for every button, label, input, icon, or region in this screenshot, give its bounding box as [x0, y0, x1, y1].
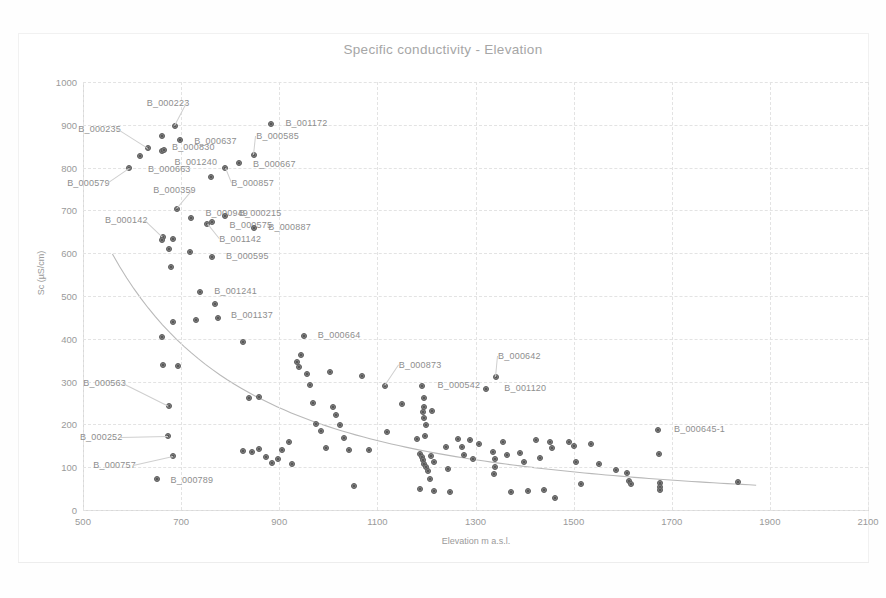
data-point[interactable] [428, 453, 434, 459]
data-point[interactable] [263, 454, 269, 460]
data-point[interactable] [423, 422, 429, 428]
data-point[interactable] [476, 441, 482, 447]
data-point[interactable] [301, 333, 307, 339]
data-point[interactable] [459, 444, 465, 450]
data-point[interactable] [628, 481, 634, 487]
data-point[interactable] [168, 264, 174, 270]
data-point[interactable] [236, 160, 242, 166]
data-point[interactable] [657, 487, 663, 493]
data-point[interactable] [417, 486, 423, 492]
data-point[interactable] [431, 459, 437, 465]
data-point[interactable] [483, 386, 489, 392]
data-point[interactable] [655, 427, 661, 433]
data-point[interactable] [508, 489, 514, 495]
data-point[interactable] [310, 400, 316, 406]
data-point[interactable] [445, 466, 451, 472]
data-point[interactable] [421, 415, 427, 421]
data-point[interactable] [504, 452, 510, 458]
data-point[interactable] [588, 441, 594, 447]
data-point[interactable] [161, 147, 167, 153]
data-point[interactable] [447, 489, 453, 495]
data-point[interactable] [154, 476, 160, 482]
data-point[interactable] [286, 439, 292, 445]
data-point[interactable] [399, 401, 405, 407]
data-point[interactable] [341, 435, 347, 441]
data-point[interactable] [188, 215, 194, 221]
data-point[interactable] [337, 422, 343, 428]
data-point[interactable] [422, 433, 428, 439]
data-point[interactable] [159, 237, 165, 243]
data-point[interactable] [240, 339, 246, 345]
data-point[interactable] [552, 495, 558, 501]
data-point[interactable] [209, 254, 215, 260]
data-point[interactable] [521, 459, 527, 465]
data-point[interactable] [268, 121, 274, 127]
data-point[interactable] [304, 371, 310, 377]
data-point[interactable] [624, 470, 630, 476]
data-point[interactable] [160, 362, 166, 368]
data-point[interactable] [421, 395, 427, 401]
data-point[interactable] [249, 449, 255, 455]
data-point[interactable] [470, 456, 476, 462]
data-point[interactable] [431, 488, 437, 494]
data-point[interactable] [187, 249, 193, 255]
data-point[interactable] [500, 439, 506, 445]
data-point[interactable] [256, 446, 262, 452]
data-point[interactable] [170, 319, 176, 325]
data-point[interactable] [275, 456, 281, 462]
data-point[interactable] [351, 483, 357, 489]
data-point[interactable] [166, 246, 172, 252]
data-point[interactable] [549, 445, 555, 451]
data-point[interactable] [175, 363, 181, 369]
data-point[interactable] [330, 404, 336, 410]
data-point[interactable] [443, 444, 449, 450]
data-point[interactable] [159, 133, 165, 139]
data-point[interactable] [296, 364, 302, 370]
data-point[interactable] [384, 429, 390, 435]
data-point[interactable] [307, 382, 313, 388]
data-point[interactable] [246, 395, 252, 401]
data-point[interactable] [425, 468, 431, 474]
data-point[interactable] [467, 437, 473, 443]
data-point[interactable] [613, 467, 619, 473]
data-point[interactable] [159, 334, 165, 340]
data-point[interactable] [735, 479, 741, 485]
data-point[interactable] [313, 421, 319, 427]
data-point[interactable] [429, 408, 435, 414]
data-point[interactable] [209, 219, 215, 225]
data-point[interactable] [212, 301, 218, 307]
data-point[interactable] [525, 488, 531, 494]
data-point[interactable] [222, 213, 228, 219]
data-point[interactable] [323, 445, 329, 451]
data-point[interactable] [256, 394, 262, 400]
data-point[interactable] [656, 451, 662, 457]
data-point[interactable] [490, 449, 496, 455]
data-point[interactable] [533, 437, 539, 443]
data-point[interactable] [492, 456, 498, 462]
data-point[interactable] [573, 459, 579, 465]
data-point[interactable] [137, 153, 143, 159]
data-point[interactable] [197, 289, 203, 295]
data-point[interactable] [419, 383, 425, 389]
data-point[interactable] [193, 317, 199, 323]
data-point[interactable] [327, 369, 333, 375]
data-point[interactable] [596, 461, 602, 467]
data-point[interactable] [346, 447, 352, 453]
data-point[interactable] [240, 448, 246, 454]
data-point[interactable] [318, 428, 324, 434]
data-point[interactable] [333, 412, 339, 418]
data-point[interactable] [359, 373, 365, 379]
data-point[interactable] [366, 447, 372, 453]
data-point[interactable] [427, 476, 433, 482]
data-point[interactable] [541, 487, 547, 493]
data-point[interactable] [517, 450, 523, 456]
data-point[interactable] [208, 174, 214, 180]
data-point[interactable] [298, 352, 304, 358]
data-point[interactable] [414, 436, 420, 442]
data-point[interactable] [279, 447, 285, 453]
data-point[interactable] [269, 460, 275, 466]
data-point[interactable] [571, 443, 577, 449]
data-point[interactable] [215, 315, 221, 321]
data-point[interactable] [461, 452, 467, 458]
data-point[interactable] [455, 436, 461, 442]
